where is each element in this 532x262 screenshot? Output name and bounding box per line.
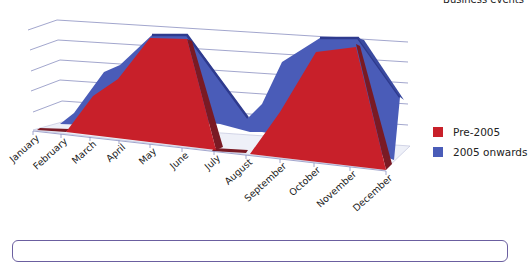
x-label-december: December (350, 172, 394, 213)
legend-swatch-blue-icon (433, 147, 443, 157)
legend-label: Pre-2005 (453, 126, 500, 138)
legend-swatch-red-icon (433, 127, 443, 137)
x-label-june: June (167, 149, 191, 172)
x-label-march: March (69, 138, 98, 166)
x-label-april: April (104, 141, 128, 164)
x-label-august: August (222, 156, 254, 187)
legend-item-2005-onwards: 2005 onwards (433, 142, 527, 162)
legend-item-pre-2005: Pre-2005 (433, 122, 527, 142)
x-label-october: October (287, 164, 323, 198)
x-label-may: May (136, 145, 158, 167)
legend-label: 2005 onwards (453, 146, 527, 158)
bottom-panel-frame (12, 240, 508, 262)
chart-legend: Pre-2005 2005 onwards (433, 122, 527, 162)
x-label-july: July (202, 152, 223, 173)
